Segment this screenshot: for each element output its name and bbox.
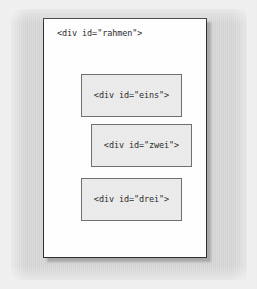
div-box-eins-label: <div id="eins"> xyxy=(94,90,169,101)
figure-scan: <div id="rahmen"> <div id="eins"> <div i… xyxy=(0,0,257,289)
div-box-drei-label: <div id="drei"> xyxy=(94,194,169,205)
div-box-zwei-label: <div id="zwei"> xyxy=(104,140,179,151)
div-box-eins: <div id="eins"> xyxy=(81,74,182,117)
rahmen-label: <div id="rahmen"> xyxy=(57,28,142,39)
div-box-zwei: <div id="zwei"> xyxy=(91,124,192,167)
div-box-drei: <div id="drei"> xyxy=(81,178,182,221)
rahmen-container: <div id="rahmen"> <div id="eins"> <div i… xyxy=(43,18,207,258)
